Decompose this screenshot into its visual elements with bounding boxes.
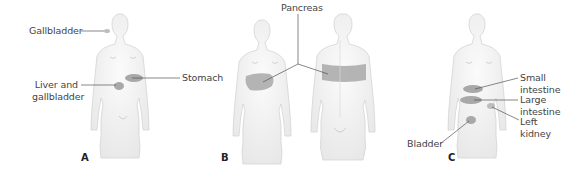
liver-zone [114,82,124,90]
figure-b-back [311,14,375,160]
label-gallbladder: Gallbladder [29,25,83,37]
label-small-line1: Small [520,72,561,84]
label-liver-line2: gallbladder [32,91,78,103]
label-liver-and-gallbladder: Liver and gallbladder [32,79,78,103]
panel-letter-a: A [81,152,89,163]
panel-letter-c: C [448,152,455,163]
label-stomach: Stomach [182,72,223,84]
label-left-kidney: Left kidney [520,116,551,140]
label-large-line1: Large [520,94,561,106]
label-pancreas: Pancreas [281,2,323,14]
bladder-zone [466,116,476,124]
small-intestine-zone [463,85,483,93]
figure-b-front [233,20,291,164]
label-large-intestine: Large intestine [520,94,561,118]
label-small-intestine: Small intestine [520,72,561,96]
label-kidney-line1: Left [520,116,551,128]
figure-a-front [81,14,180,158]
label-bladder: Bladder [407,138,443,150]
figure-c-front [440,14,519,158]
label-liver-line1: Liver and [32,79,78,91]
gallbladder-zone [104,29,110,33]
pancreas-zone-back [322,64,366,82]
panel-letter-b: B [221,152,229,163]
label-kidney-line2: kidney [520,128,551,140]
